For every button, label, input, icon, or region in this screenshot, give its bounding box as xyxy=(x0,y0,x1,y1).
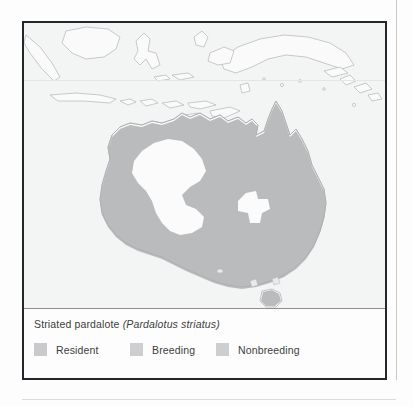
page-column-rule xyxy=(396,0,397,380)
map-legend: Resident Breeding Nonbreeding xyxy=(34,343,300,356)
legend-swatch-breeding xyxy=(130,343,143,356)
figure-caption: Striated pardalote (Pardalotus striatus) xyxy=(34,318,220,330)
caption-block: Striated pardalote (Pardalotus striatus)… xyxy=(24,308,385,378)
legend-label-breeding: Breeding xyxy=(152,344,195,356)
legend-swatch-nonbreeding xyxy=(216,343,229,356)
map-area xyxy=(24,23,385,308)
legend-label-resident: Resident xyxy=(56,344,99,356)
legend-item-nonbreeding: Nonbreeding xyxy=(216,343,300,356)
legend-item-breeding: Breeding xyxy=(130,343,216,356)
distribution-map-figure: Striated pardalote (Pardalotus striatus)… xyxy=(22,21,387,380)
caption-scientific-name: (Pardalotus striatus) xyxy=(123,318,220,330)
legend-item-resident: Resident xyxy=(34,343,130,356)
caption-common-name: Striated pardalote xyxy=(34,318,120,330)
page-horizontal-rule xyxy=(22,399,396,400)
legend-label-nonbreeding: Nonbreeding xyxy=(238,344,300,356)
legend-swatch-resident xyxy=(34,343,47,356)
australia-distribution-map xyxy=(24,23,385,308)
page-background: Striated pardalote (Pardalotus striatus)… xyxy=(0,0,413,407)
